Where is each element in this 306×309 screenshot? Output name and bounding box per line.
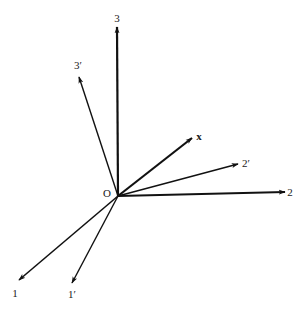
- coordinate-axes-diagram: [0, 0, 306, 309]
- axis-3-arrow: [117, 27, 118, 196]
- axis-2-label: 2: [287, 187, 293, 198]
- axis-2-prime-arrow: [118, 164, 238, 196]
- axis-1-label: 1: [12, 288, 18, 299]
- axes-group: [19, 27, 285, 283]
- vector-x-label: x: [196, 131, 202, 142]
- axis-3-prime-arrow: [79, 77, 118, 196]
- axis-3-prime-label: 3′: [74, 60, 82, 71]
- axis-1-arrow: [19, 196, 118, 280]
- axis-3-label: 3: [114, 13, 120, 24]
- axis-1-prime-label: 1′: [68, 289, 76, 300]
- vector-x-arrow: [118, 138, 192, 196]
- axis-1-prime-arrow: [72, 196, 118, 283]
- axis-2-prime-label: 2′: [242, 158, 250, 169]
- origin-label: O: [103, 188, 111, 199]
- axis-2-arrow: [118, 192, 285, 196]
